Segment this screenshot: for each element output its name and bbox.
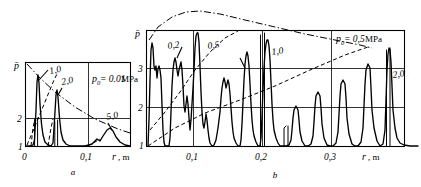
panel-a-ytick-1: 1	[18, 142, 23, 152]
panel-b-xtick-01: 0,1	[186, 152, 198, 162]
panel-a-xtick-0: 0	[22, 152, 27, 162]
panel-b-xtick-02: 0,2	[255, 152, 267, 162]
panel-a-curve-1-0	[26, 75, 51, 146]
panel-a-curve-label-2-0: 2,0	[60, 75, 74, 87]
panel-b-leader-0-5	[240, 58, 245, 68]
panel-b-caption: b	[273, 170, 278, 180]
panel-a-leader-2-0	[58, 88, 62, 95]
panel-b-xtick-03: 0,3	[324, 152, 336, 162]
panel-a-leader-1-0	[39, 70, 48, 80]
panel-b-x-axis-unit: , m	[368, 152, 380, 162]
panel-b-curve-group-1-0	[280, 64, 380, 146]
panel-b-curve-group-0-2	[148, 33, 212, 146]
panel-a-spike2-notch	[55, 120, 58, 146]
panel-a-curve-label-1-0: 1,0	[48, 64, 62, 76]
panel-a-caption: a	[71, 167, 76, 177]
panel-a-curve-label-5-0: 5,0	[105, 110, 119, 122]
panel-b-curve-label-0-2: 0,2	[167, 39, 180, 51]
panel-b-y-axis-label: p̄	[134, 28, 140, 39]
panel-a-spike1-notch	[35, 118, 38, 146]
panel-a: p̄ 2 1 0 0,1 r , m p 0 = 0.01 MPa	[13, 60, 138, 177]
panel-b-condition-annotation: p 0 = 0,5 MPa	[335, 33, 382, 46]
panel-b-ytick-1: 1	[139, 141, 144, 151]
panel-a-curve-5-0	[85, 128, 130, 146]
panel-b: p̄ 3 2 1 0,1 0,2 0,3 r , m p 0 = 0,5 MPa	[134, 11, 418, 180]
panel-a-x-axis-label: r	[112, 151, 116, 162]
panel-b-curve-group-0-5	[212, 40, 280, 146]
panel-b-ytick-2: 2	[138, 103, 143, 113]
panel-a-xtick-01: 0,1	[80, 152, 92, 162]
panel-a-dashed-riser-2	[48, 119, 53, 146]
panel-a-x-axis-unit: , m	[118, 152, 130, 162]
panel-a-condition-unit: MPa	[121, 74, 138, 84]
panel-b-curve-label-1-0: 1,0	[271, 45, 284, 57]
panel-a-ytick-2: 2	[17, 114, 22, 124]
panel-b-condition-unit: MPa	[365, 34, 382, 44]
figure-svg: .ax{fill:none;stroke:#000;stroke-width:1…	[0, 0, 421, 187]
panel-b-curve-label-0-5: 0,5	[207, 39, 220, 51]
panel-a-y-axis-label: p̄	[13, 60, 19, 71]
panel-b-x-axis-label: r	[362, 151, 366, 162]
figure-container: .ax{fill:none;stroke:#000;stroke-width:1…	[0, 0, 421, 187]
panel-b-ytick-3: 3	[137, 64, 143, 74]
panel-a-curve-2-0	[51, 90, 85, 146]
panel-b-curve-label-2-0: 2,0	[392, 68, 405, 80]
panel-b-group10-lead-notch	[284, 126, 288, 146]
panel-b-curve-group-2-0	[380, 48, 418, 146]
